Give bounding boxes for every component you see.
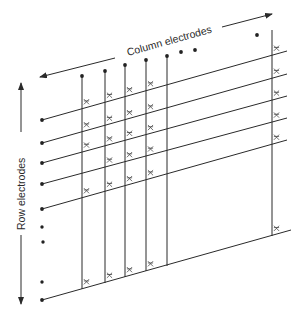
crosspoint-x-icon	[274, 69, 279, 74]
crosspoint-x-icon	[274, 226, 279, 231]
crosspoint-x-icon	[127, 110, 132, 115]
row-terminal-dot-icon	[40, 182, 44, 186]
row-terminal-dot-icon	[40, 118, 44, 122]
column-terminal-dot-icon	[80, 74, 84, 78]
crosspoint-x-icon	[148, 146, 153, 151]
crosspoint-x-icon	[127, 267, 132, 272]
crosspoint-x-icon	[274, 112, 279, 117]
crosspoint-x-icon	[127, 152, 132, 157]
crosspoint-x-icon	[107, 116, 112, 121]
crosspoint-x-icon	[148, 261, 153, 266]
crosspoint-x-icon	[84, 279, 89, 284]
crosspoint-x-icon	[148, 104, 153, 109]
crosspoint-x-icon	[148, 125, 153, 130]
crosspoint-x-icon	[84, 142, 89, 147]
column-electrodes-label: Column electrodes	[125, 23, 213, 58]
row-electrodes-label: Row electrodes	[15, 158, 27, 230]
crosspoint-x-icon	[84, 122, 89, 127]
crosspoint-x-icon	[107, 93, 112, 98]
ellipsis-dot-icon	[41, 240, 44, 243]
crosspoint-x-icon	[148, 170, 153, 175]
column-right-arrow-icon	[222, 14, 272, 27]
electrode-terminals	[40, 33, 259, 302]
ellipsis-dot-icon	[40, 280, 43, 283]
crosspoint-x-icon	[127, 176, 132, 181]
crosspoint-x-icon	[127, 87, 132, 92]
column-terminal-dot-icon	[255, 33, 259, 37]
crosspoint-x-icon	[107, 136, 112, 141]
column-left-arrow-icon	[40, 58, 115, 77]
row-terminal-dot-icon	[40, 161, 44, 165]
column-terminal-dot-icon	[144, 58, 148, 62]
column-terminal-dot-icon	[123, 63, 127, 67]
crosspoint-x-icon	[274, 135, 279, 140]
crosspoint-x-icon	[274, 46, 279, 51]
row-electrode-line	[42, 74, 287, 143]
row-electrode-line	[42, 96, 287, 163]
crosspoint-x-icon	[107, 182, 112, 187]
crosspoint-x-icon	[274, 91, 279, 96]
column-terminal-dot-icon	[193, 48, 197, 52]
row-terminal-dot-icon	[40, 141, 44, 145]
electrode-matrix-diagram: Column electrodes Row electrodes	[0, 0, 304, 317]
column-terminal-dot-icon	[179, 50, 183, 54]
column-terminal-dot-icon	[103, 69, 107, 73]
crosspoint-x-icon	[84, 99, 89, 104]
row-terminal-dot-icon	[40, 207, 44, 211]
crosspoint-x-icon	[127, 131, 132, 136]
crosspoint-x-icon	[107, 273, 112, 278]
row-terminal-dot-icon	[40, 298, 44, 302]
crosspoint-x-icon	[84, 188, 89, 193]
ellipsis-dot-icon	[40, 225, 43, 228]
row-electrode-line	[42, 51, 287, 120]
crosspoint-x-icon	[148, 81, 153, 86]
crosspoint-x-icon	[107, 157, 112, 162]
column-terminal-dot-icon	[165, 54, 169, 58]
